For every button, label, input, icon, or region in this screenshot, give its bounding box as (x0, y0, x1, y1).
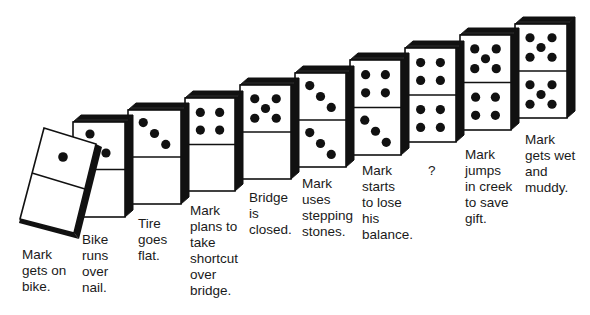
domino-10 (515, 17, 575, 118)
pip-icon (436, 76, 445, 85)
pip-icon (196, 108, 205, 117)
pip-icon (436, 58, 445, 67)
pip-icon (470, 44, 479, 53)
pip-icon (250, 114, 259, 123)
pip-icon (491, 93, 500, 102)
pip-icon (471, 93, 480, 102)
domino-7 (350, 53, 409, 155)
domino-label-5: Bridge is closed. (249, 190, 292, 238)
pip-icon (547, 80, 556, 89)
pip-icon (481, 54, 490, 63)
domino-label-9: Mark jumps in creek to save gift. (465, 147, 512, 227)
pip-icon (536, 43, 545, 52)
pip-icon (547, 100, 556, 109)
pip-icon (272, 94, 281, 103)
domino-6 (295, 66, 354, 167)
pip-icon (327, 150, 336, 159)
pip-icon (416, 123, 425, 132)
pip-icon (361, 88, 370, 97)
domino-label-1: Mark gets on bike. (22, 247, 66, 295)
pip-icon (381, 88, 390, 97)
pip-icon (361, 70, 370, 79)
domino-9 (460, 28, 519, 130)
pip-icon (416, 76, 425, 85)
pip-icon (436, 105, 445, 114)
pip-icon (196, 126, 205, 135)
pip-icon (471, 111, 480, 120)
pip-icon (547, 33, 556, 42)
pip-icon (547, 53, 556, 62)
pip-icon (491, 111, 500, 120)
pip-icon (360, 116, 369, 125)
pip-icon (215, 108, 224, 117)
pip-icon (85, 129, 94, 138)
domino-label-4: Mark plans to take shortcut over bridge. (190, 203, 238, 299)
pip-icon (316, 92, 325, 101)
domino-4 (185, 91, 243, 191)
domino-label-7: Mark starts to lose his balance. (362, 163, 413, 243)
pip-icon (101, 148, 110, 157)
pip-icon (525, 100, 534, 109)
pip-icon (58, 152, 68, 162)
domino-label-2: Bike runs over nail. (82, 232, 108, 296)
pip-icon (250, 94, 259, 103)
pip-icon (316, 139, 325, 148)
pip-icon (272, 114, 281, 123)
domino-3 (128, 103, 189, 204)
domino-label-3: Tire goes flat. (138, 216, 167, 264)
pip-icon (139, 118, 148, 127)
pip-icon (261, 104, 270, 113)
pip-icon (382, 138, 391, 147)
pip-icon (416, 58, 425, 67)
pip-icon (150, 129, 159, 138)
pip-icon (525, 33, 534, 42)
domino-label-10: Mark gets wet and muddy. (525, 132, 575, 196)
domino-5 (240, 78, 299, 179)
pip-icon (525, 80, 534, 89)
domino-8 (405, 41, 464, 142)
pip-icon (161, 140, 170, 149)
pip-icon (536, 90, 545, 99)
pip-icon (525, 53, 534, 62)
pip-icon (305, 81, 314, 90)
pip-icon (327, 103, 336, 112)
pip-icon (470, 64, 479, 73)
pip-icon (492, 64, 501, 73)
pip-icon (371, 127, 380, 136)
pip-icon (215, 126, 224, 135)
domino-1-fallen (19, 128, 102, 239)
domino-label-6: Mark uses stepping stones. (302, 176, 353, 240)
pip-icon (416, 105, 425, 114)
domino-label-8-unknown: ? (428, 163, 436, 179)
pip-icon (492, 44, 501, 53)
pip-icon (381, 70, 390, 79)
pip-icon (436, 123, 445, 132)
pip-icon (305, 128, 314, 137)
